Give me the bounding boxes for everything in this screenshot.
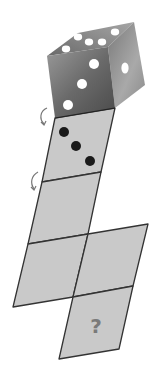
pip (98, 39, 106, 46)
die (47, 22, 145, 118)
pip (74, 34, 82, 41)
puzzle-figure: ? (0, 0, 160, 383)
pip (62, 46, 70, 53)
question-mark: ? (90, 314, 102, 338)
die-right-pips (121, 63, 128, 74)
pip (59, 127, 69, 137)
rotate-arrow-icon (41, 108, 47, 125)
pip (63, 100, 73, 110)
rotate-arrow-icon (31, 172, 38, 190)
pip (77, 79, 87, 89)
pip (85, 39, 93, 46)
pip (89, 59, 99, 69)
pip (121, 63, 128, 74)
pip (71, 141, 81, 151)
pip (111, 29, 119, 36)
pip (85, 156, 95, 166)
dice-rolling-puzzle: ? (0, 0, 160, 383)
